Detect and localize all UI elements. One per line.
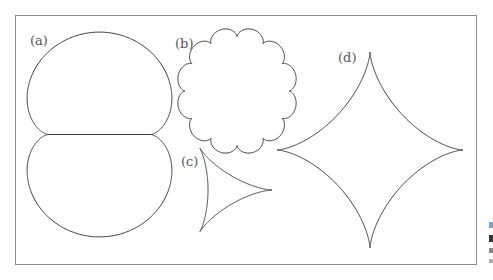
caption-fragment bbox=[489, 259, 493, 263]
cropped-caption-fragments bbox=[489, 222, 493, 263]
astroid-curve bbox=[277, 52, 463, 248]
panel-label-d: (d) bbox=[338, 50, 356, 65]
figure-canvas: (a) (b) (c) (d) bbox=[0, 0, 493, 280]
figure-frame bbox=[16, 16, 477, 265]
nephroid-curve bbox=[27, 32, 172, 237]
deltoid-curve bbox=[200, 148, 272, 231]
epicycloid-cloud-curve bbox=[178, 29, 296, 153]
caption-fragment bbox=[489, 235, 493, 242]
caption-fragment bbox=[489, 222, 493, 228]
panel-label-b: (b) bbox=[175, 36, 193, 51]
caption-fragment bbox=[489, 248, 493, 253]
panel-label-c: (c) bbox=[181, 154, 198, 169]
panel-label-a: (a) bbox=[30, 33, 48, 48]
